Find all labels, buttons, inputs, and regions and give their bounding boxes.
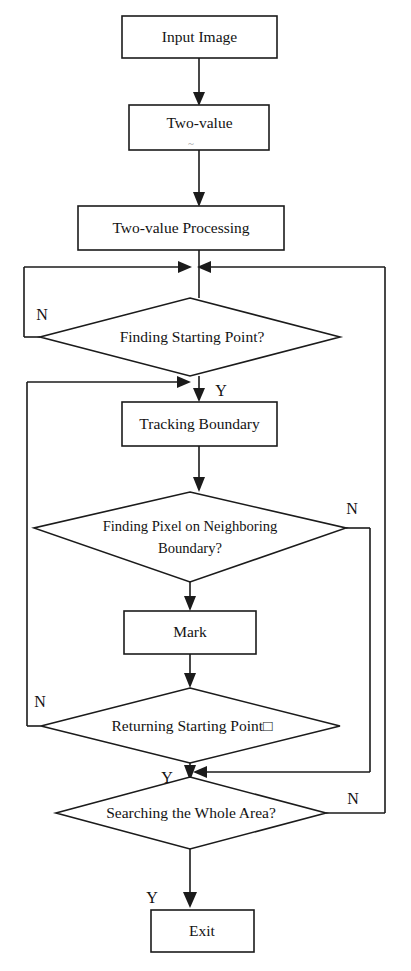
flowchart-canvas: Input Image Two-value ~ Two-value Proces… [0, 0, 411, 971]
arrowhead-findstart-yes [193, 388, 205, 402]
node-finding-pixel-label-line1: Finding Pixel on Neighboring [103, 518, 278, 534]
branch-label-returnstart-yes: Y [161, 769, 173, 786]
node-finding-pixel[interactable]: Finding Pixel on Neighboring Boundary? [34, 492, 346, 582]
node-finding-pixel-label-line2: Boundary? [158, 540, 222, 556]
node-two-value[interactable]: Two-value ~ [129, 105, 269, 150]
branch-label-searchwhole-no: N [347, 790, 359, 807]
arrowhead-input-to-twovalue [193, 92, 205, 106]
flowchart-svg: Input Image Two-value ~ Two-value Proces… [0, 0, 411, 971]
node-returning-starting-point-label: Returning Starting Point□ [112, 717, 274, 734]
node-mark-label: Mark [173, 623, 207, 640]
node-two-value-label: Two-value [166, 114, 232, 131]
node-searching-whole-area[interactable]: Searching the Whole Area? [56, 777, 326, 849]
branch-label-searchwhole-yes: Y [146, 889, 158, 906]
arrowhead-twovalue-to-processing [193, 192, 205, 207]
node-searching-whole-area-label: Searching the Whole Area? [106, 804, 276, 821]
node-mark[interactable]: Mark [124, 611, 256, 654]
node-finding-pixel-diamond [34, 492, 346, 582]
node-returning-starting-point[interactable]: Returning Starting Point□ [41, 688, 340, 763]
arrowhead-findpixel-no-into-junction [193, 766, 207, 778]
node-exit[interactable]: Exit [151, 910, 254, 952]
node-two-value-processing[interactable]: Two-value Processing [78, 206, 284, 250]
node-finding-starting-point-label: Finding Starting Point? [120, 328, 265, 345]
node-two-value-processing-label: Two-value Processing [112, 219, 249, 236]
arrowhead-returnloop-into-track [177, 376, 191, 388]
branch-label-findstart-yes: Y [215, 382, 227, 399]
node-tracking-boundary[interactable]: Tracking Boundary [122, 402, 277, 446]
arrowhead-merge-from-left [178, 261, 192, 273]
node-exit-label: Exit [189, 922, 216, 939]
branch-label-findpixel-no: N [346, 500, 358, 517]
node-input-image-label: Input Image [162, 28, 237, 45]
arrowhead-findpixel-to-mark [184, 596, 196, 611]
node-input-image[interactable]: Input Image [122, 16, 277, 58]
branch-label-findstart-no: N [36, 306, 48, 323]
branch-label-returnstart-no: N [34, 693, 46, 710]
arrowhead-searchwhole-yes [183, 892, 197, 908]
node-finding-starting-point[interactable]: Finding Starting Point? [40, 298, 340, 376]
arrowhead-track-to-findpixel [193, 477, 205, 492]
arrowhead-mark-to-returnstart [184, 673, 196, 688]
node-tracking-boundary-label: Tracking Boundary [139, 415, 260, 432]
node-two-value-artifact: ~ [188, 137, 194, 149]
